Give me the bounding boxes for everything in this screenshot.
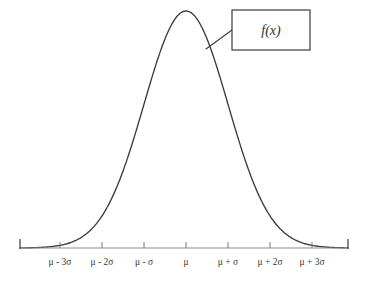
- x-axis-tick-label: μ + 2σ: [257, 257, 282, 267]
- x-axis-tick-label: μ + σ: [218, 257, 238, 267]
- x-axis-tick-label: μ: [183, 257, 188, 267]
- x-axis-tick-label: μ + 3σ: [299, 257, 324, 267]
- callout-label: f(x): [261, 23, 281, 39]
- x-axis-tick-label: μ - 3σ: [49, 257, 72, 267]
- x-axis-tick-label: μ - σ: [135, 257, 153, 267]
- normal-distribution-figure: μ - 3σμ - 2σμ - σμμ + σμ + 2σμ + 3σ f(x): [0, 0, 368, 281]
- x-axis-tick-label: μ - 2σ: [91, 257, 114, 267]
- distribution-plot: μ - 3σμ - 2σμ - σμμ + σμ + 2σμ + 3σ f(x): [0, 0, 368, 281]
- x-axis-tick-marks: [60, 242, 312, 248]
- x-axis-tick-labels: μ - 3σμ - 2σμ - σμμ + σμ + 2σμ + 3σ: [49, 257, 325, 267]
- callout-leader-line: [206, 30, 232, 49]
- fx-callout: f(x): [206, 10, 310, 50]
